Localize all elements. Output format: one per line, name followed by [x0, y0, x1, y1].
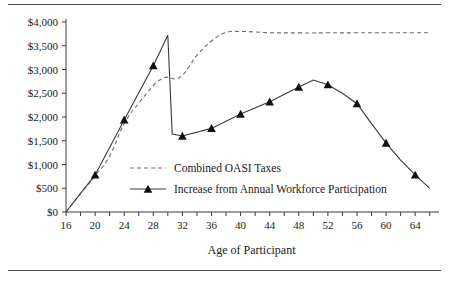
x-axis-title: Age of Participant	[208, 243, 297, 257]
x-axis-tick-label: 60	[381, 219, 393, 231]
y-axis-tick-label: $2,000	[28, 111, 59, 123]
chart-plot-area: $0$500$1,000$1,500$2,000$2,500$3,000$3,5…	[0, 0, 449, 281]
series-marker	[207, 124, 216, 132]
chart-legend: Combined OASI TaxesIncrease from Annual …	[130, 162, 387, 196]
y-axis-tick-label: $4,000	[28, 16, 59, 28]
series-marker	[149, 61, 158, 69]
series-marker	[294, 83, 303, 91]
y-axis-tick-label: $0	[47, 206, 59, 218]
y-axis-tick-label: $500	[36, 182, 59, 194]
x-axis-tick-label: 44	[264, 219, 276, 231]
x-axis-tick-label: 64	[410, 219, 422, 231]
x-axis-tickmarks	[66, 212, 430, 216]
x-axis-tick-label: 36	[206, 219, 218, 231]
series-marker	[236, 110, 245, 118]
chart-figure: $0$500$1,000$1,500$2,000$2,500$3,000$3,5…	[0, 0, 449, 281]
series-marker	[353, 99, 362, 107]
x-axis-tick-labels: 16202428323640444852566064	[61, 219, 422, 231]
x-axis-tick-label: 52	[322, 219, 333, 231]
x-axis-tick-label: 24	[119, 219, 131, 231]
series-marker	[265, 98, 274, 106]
series-marker	[382, 139, 391, 147]
x-axis-tick-label: 28	[148, 219, 160, 231]
x-axis-tick-label: 56	[351, 219, 363, 231]
legend-item: Combined OASI Taxes	[130, 162, 281, 174]
legend-item-label: Combined OASI Taxes	[174, 162, 281, 174]
x-axis-tick-label: 32	[177, 219, 188, 231]
y-axis-tick-label: $3,000	[28, 64, 59, 76]
y-axis-tick-label: $1,500	[28, 135, 59, 147]
y-axis-tickmarks	[62, 22, 66, 212]
y-axis-tick-labels: $0$500$1,000$1,500$2,000$2,500$3,000$3,5…	[28, 16, 59, 218]
x-axis-tick-label: 16	[61, 219, 73, 231]
x-axis-tick-label: 20	[90, 219, 102, 231]
x-axis-tick-label: 40	[235, 219, 247, 231]
legend-item-label: Increase from Annual Workforce Participa…	[174, 183, 387, 196]
y-axis-tick-label: $2,500	[28, 87, 59, 99]
y-axis-tick-label: $3,500	[28, 40, 59, 52]
y-axis-tick-label: $1,000	[28, 159, 59, 171]
series-marker	[120, 116, 129, 124]
x-axis-tick-label: 48	[293, 219, 305, 231]
series-marker	[324, 80, 333, 88]
legend-item: Increase from Annual Workforce Participa…	[130, 183, 387, 196]
